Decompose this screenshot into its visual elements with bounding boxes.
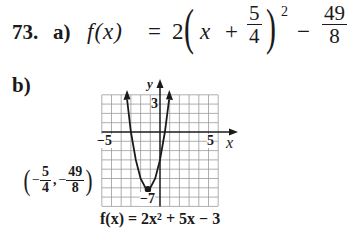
tick-label-x-pos5: 5 bbox=[207, 134, 214, 148]
vertex-x-denominator: 4 bbox=[40, 181, 51, 196]
x-axis-label: x bbox=[226, 134, 233, 152]
vertex-y-fraction: 49 8 bbox=[66, 165, 84, 195]
tick-label-y-3: 3 bbox=[151, 97, 158, 111]
vertex-x-fraction: 5 4 bbox=[40, 165, 51, 195]
y-axis-arrow-icon bbox=[157, 79, 164, 88]
vertex-y-numerator: 49 bbox=[66, 165, 84, 181]
parabola-curve bbox=[127, 100, 169, 190]
vertex-open-paren: ( bbox=[24, 163, 31, 197]
vertex-close-paren: ) bbox=[86, 163, 93, 197]
vertex-sign-y: − bbox=[58, 172, 66, 188]
vertex-comma: , bbox=[53, 172, 57, 188]
vertex-y-denominator: 8 bbox=[70, 181, 81, 196]
vertex-label: ( − 5 4 , − 49 8 ) bbox=[22, 163, 94, 197]
tick-label-x-neg5: −5 bbox=[97, 134, 112, 148]
vertex-sign-x: − bbox=[32, 172, 40, 188]
vertex-x-numerator: 5 bbox=[40, 165, 51, 181]
tick-label-y-neg7: −7 bbox=[140, 192, 155, 206]
graph-equation-label: f(x) = 2x² + 5x − 3 bbox=[100, 210, 220, 228]
parabola-graph bbox=[0, 0, 352, 233]
y-axis-label: y bbox=[147, 76, 153, 92]
